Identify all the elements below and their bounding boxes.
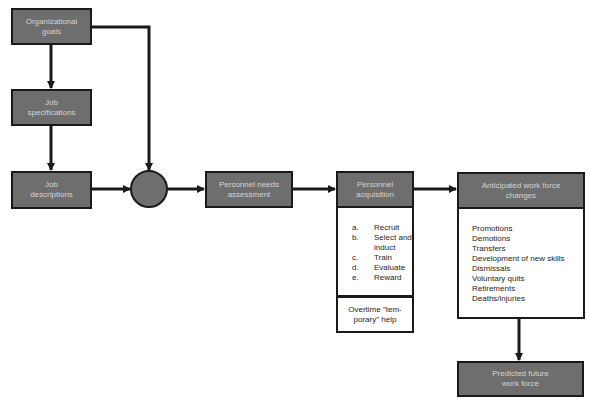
acquisition-steps-list: a.Recruitb.Select and inductc.Traind.Eva… [352, 223, 412, 283]
workforce-change-item: Promotions [472, 224, 583, 234]
step-label: Evaluate [374, 263, 405, 273]
node-label: Job descriptions [30, 180, 73, 200]
acquisition-step: d.Evaluate [352, 263, 412, 273]
acquisition-step: e.Reward [352, 273, 412, 283]
workforce-change-item: Deaths/injuries [472, 294, 583, 304]
node-predicted-future-work-force: Predicted future work force [457, 361, 584, 397]
step-label: Select and induct [374, 233, 412, 253]
workforce-change-item: Demotions [472, 234, 583, 244]
workforce-change-item: Transfers [472, 244, 583, 254]
node-label: Organizational goals [26, 17, 78, 37]
acquisition-note-panel: Overtime "tem- porary" help [336, 296, 414, 333]
step-key: a. [352, 223, 374, 233]
step-key: e. [352, 273, 374, 283]
acquisition-step: a.Recruit [352, 223, 412, 233]
node-personnel-needs-assessment: Personnel needs assessment [205, 171, 293, 208]
node-job-descriptions: Job descriptions [11, 171, 92, 209]
acquisition-steps-panel: a.Recruitb.Select and inductc.Traind.Eva… [336, 208, 414, 297]
node-personnel-acquisition: Personnel acquisition [336, 171, 414, 208]
acquisition-step: b.Select and induct [352, 233, 412, 253]
acquisition-note: Overtime "tem- porary" help [348, 305, 402, 325]
step-key: d. [352, 263, 374, 273]
acquisition-step: c.Train [352, 253, 412, 263]
workforce-change-item: Development of new skills [472, 254, 583, 264]
workforce-change-item: Retirements [472, 284, 583, 294]
workforce-change-item: Voluntary quits [472, 274, 583, 284]
node-label: Personnel needs assessment [219, 180, 279, 200]
step-label: Reward [374, 273, 402, 283]
node-label: Personnel acquisition [356, 180, 394, 200]
step-key: c. [352, 253, 374, 263]
node-organizational-goals: Organizational goals [11, 8, 92, 45]
node-label: Job specifications [27, 98, 75, 118]
junction-node [131, 171, 167, 207]
node-label: Predicted future work force [492, 369, 548, 389]
node-anticipated-work-force-changes: Anticipated work force changes [457, 172, 585, 209]
workforce-change-item: Dismissals [472, 264, 583, 274]
step-label: Recruit [374, 223, 399, 233]
step-label: Train [374, 253, 392, 263]
step-key: b. [352, 233, 374, 253]
workforce-changes-panel: PromotionsDemotionsTransfersDevelopment … [457, 209, 585, 319]
node-job-specifications: Job specifications [11, 89, 92, 126]
arrow-goals-to-junction [92, 27, 149, 170]
node-label: Anticipated work force changes [482, 181, 561, 201]
workforce-changes-list: PromotionsDemotionsTransfersDevelopment … [472, 224, 583, 304]
